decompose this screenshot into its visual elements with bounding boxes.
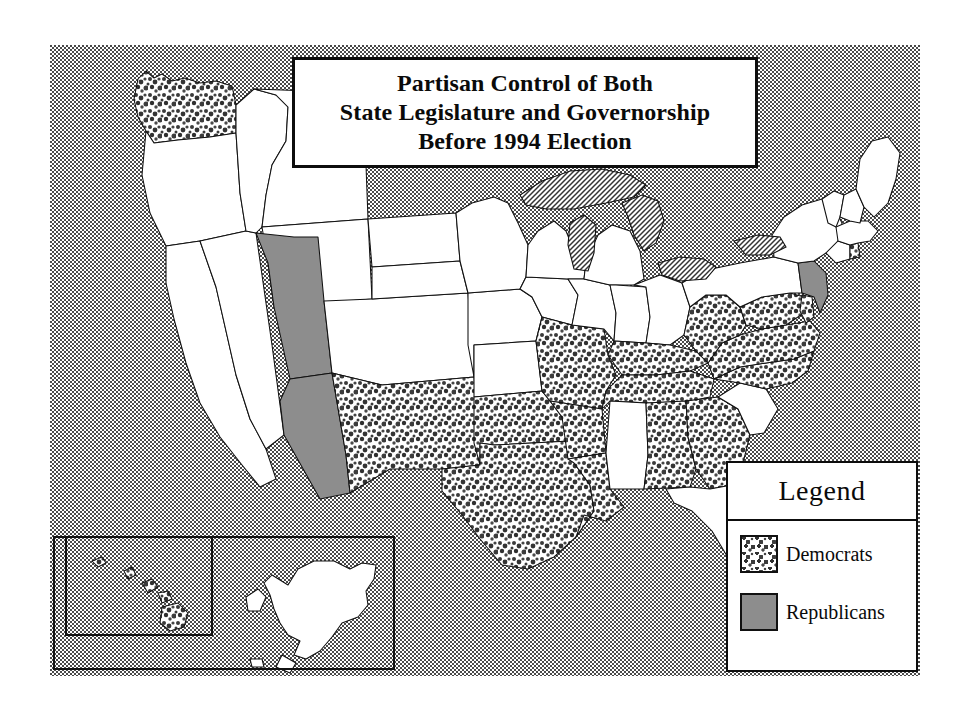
state-alaska: [246, 561, 376, 673]
state-minnesota: [456, 197, 528, 293]
state-massachusetts: [836, 221, 878, 245]
state-delaware: [800, 295, 814, 323]
state-oregon: [142, 131, 246, 246]
legend-heading: Legend: [728, 463, 916, 521]
state-washington: [134, 71, 236, 143]
title-line-1: Partisan Control of Both: [397, 69, 653, 98]
state-north-dakota: [368, 213, 460, 267]
state-hawaii: [92, 557, 188, 631]
state-colorado: [324, 293, 474, 385]
legend-label-democrats: Democrats: [786, 543, 873, 566]
title-line-2: State Legislature and Governorship: [340, 98, 710, 127]
state-rhode-island: [850, 243, 860, 259]
map-title-box: Partisan Control of Both State Legislatu…: [292, 57, 758, 168]
state-mississippi: [606, 401, 648, 489]
alaska-aleutians: [250, 659, 264, 667]
state-missouri: [536, 317, 616, 409]
title-line-3: Before 1994 Election: [418, 127, 632, 156]
state-south-dakota: [372, 261, 468, 299]
legend: Legend Democrats Republicans: [726, 461, 918, 672]
legend-item-republicans: Republicans: [740, 593, 916, 631]
legend-item-democrats: Democrats: [740, 535, 916, 573]
republicans-swatch-icon: [740, 593, 778, 631]
state-indiana: [610, 285, 650, 343]
democrats-swatch-icon: [740, 535, 778, 573]
legend-label-republicans: Republicans: [786, 601, 885, 624]
hawaii-inset-box: [66, 537, 212, 635]
state-maine: [856, 137, 900, 217]
state-kansas: [474, 341, 542, 397]
legend-items: Democrats Republicans: [728, 521, 916, 670]
